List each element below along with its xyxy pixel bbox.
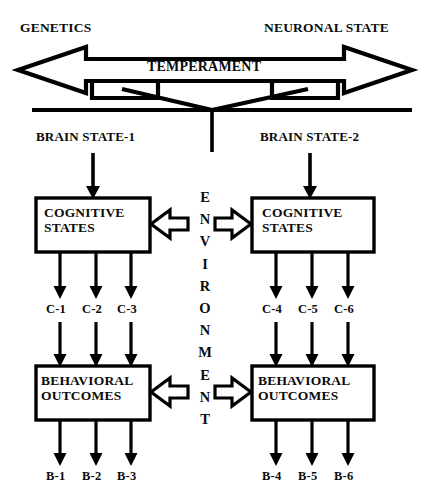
behavioral-outcomes-label-right-line1: BEHAVIORAL [258,374,351,389]
node-label-b-6: B-6 [334,470,353,484]
label-environment-vertical: ENVIRONMENT [191,186,219,430]
environment-to-behavioral-right-arrow [215,378,251,406]
environment-to-cognitive-left-arrow [151,210,188,238]
node-label-c-2: C-2 [82,303,102,317]
label-brain-state-2: BRAIN STATE-2 [260,130,359,144]
node-label-c-4: C-4 [262,303,282,317]
cognitive-nodes-left-to-behavioral-arrows [54,322,138,367]
environment-letter-7: M [191,341,219,363]
diagram-canvas: GENETICS NEURONAL STATE TEMPERAMENT BRAI… [0,0,430,500]
behavioral-left-output-arrows [54,420,138,466]
behavioral-outcomes-label-left-line1: BEHAVIORAL [41,374,134,389]
node-label-b-3: B-3 [117,470,136,484]
environment-letter-4: R [191,275,219,297]
node-label-c-5: C-5 [298,303,318,317]
label-neuronal-state: NEURONAL STATE [264,21,389,36]
environment-letter-1: N [191,208,219,230]
environment-letter-2: V [191,230,219,252]
cognitive-states-label-left: COGNITIVE STATES [44,206,125,235]
temperament-funnel-connector [92,81,338,110]
behavioral-outcomes-label-right: BEHAVIORAL OUTCOMES [258,374,351,403]
behavioral-outcomes-label-right-line2: OUTCOMES [258,389,351,404]
cognitive-states-label-right-line1: COGNITIVE [262,206,343,221]
node-label-c-1: C-1 [46,303,66,317]
node-label-b-1: B-1 [46,470,65,484]
environment-to-cognitive-right-arrow [215,210,251,238]
node-label-c-6: C-6 [334,303,354,317]
cognitive-states-label-left-line2: STATES [44,221,125,236]
environment-letter-9: N [191,386,219,408]
environment-letter-5: O [191,297,219,319]
brain-state-1-arrow [86,153,100,199]
cognitive-states-label-right-line2: STATES [262,221,343,236]
label-temperament: TEMPERAMENT [147,59,261,74]
node-label-b-2: B-2 [82,470,101,484]
cognitive-states-label-left-line1: COGNITIVE [44,206,125,221]
environment-letter-6: N [191,319,219,341]
behavioral-outcomes-label-left: BEHAVIORAL OUTCOMES [41,374,134,403]
environment-letter-8: E [191,364,219,386]
label-genetics: GENETICS [20,21,91,36]
node-label-b-5: B-5 [298,470,317,484]
behavioral-right-output-arrows [270,420,355,466]
cognitive-left-output-arrows [54,252,138,299]
cognitive-states-label-right: COGNITIVE STATES [262,206,343,235]
environment-letter-3: I [191,253,219,275]
brain-state-2-arrow [303,153,317,199]
node-label-c-3: C-3 [117,303,137,317]
environment-letter-0: E [191,186,219,208]
cognitive-nodes-right-to-behavioral-arrows [270,322,355,367]
environment-letter-10: T [191,408,219,430]
environment-to-behavioral-left-arrow [151,378,188,406]
node-label-b-4: B-4 [262,470,281,484]
cognitive-right-output-arrows [270,252,355,299]
label-brain-state-1: BRAIN STATE-1 [36,130,135,144]
behavioral-outcomes-label-left-line2: OUTCOMES [41,389,134,404]
